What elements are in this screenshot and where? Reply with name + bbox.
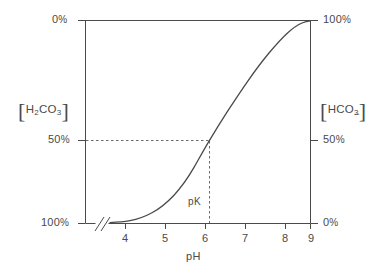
x-axis-ticks [126,224,311,230]
y-label-right-0pct: 0% [323,216,338,228]
y-axis-right-ticks [311,21,319,224]
species-charge-minus: − [354,109,360,119]
x-tick-label-6: 6 [197,232,213,244]
y-label-right-50pct: 50% [323,133,345,145]
bracket-close-right: ] [359,98,367,123]
x-tick-label-4: 4 [117,232,133,244]
y-label-left-50pct: 50% [48,133,70,145]
x-tick-label-7: 7 [237,232,253,244]
bracket-open-right: [ [320,98,328,123]
y-label-left-0pct: 0% [52,13,67,25]
titration-curve-figure: 0% 50% 100% 100% 50% 0% [H2CO3] [HCO − 3… [0,0,383,274]
y-axis-label-right-species: [HCO − 3] [320,98,367,124]
species-H: H [26,103,35,115]
bracket-close-left: ] [62,98,70,123]
species-CO: CO [39,103,57,115]
y-label-left-100pct: 100% [41,216,69,228]
bracket-open-left: [ [18,98,26,123]
pk-annotation: pK [188,196,201,207]
x-tick-label-8: 8 [277,232,293,244]
x-tick-label-5: 5 [157,232,173,244]
axis-break-marker [95,217,110,231]
y-axis-left-ticks [78,21,86,224]
guide-lines [86,141,210,224]
x-axis-title: pH [186,250,201,262]
y-axis-label-left-species: [H2CO3] [18,98,69,124]
species-HCO: HCO [328,103,354,115]
y-label-right-100pct: 100% [323,13,351,25]
x-tick-label-9: 9 [303,232,319,244]
plot-frame [86,20,311,224]
titration-curve [110,21,311,223]
